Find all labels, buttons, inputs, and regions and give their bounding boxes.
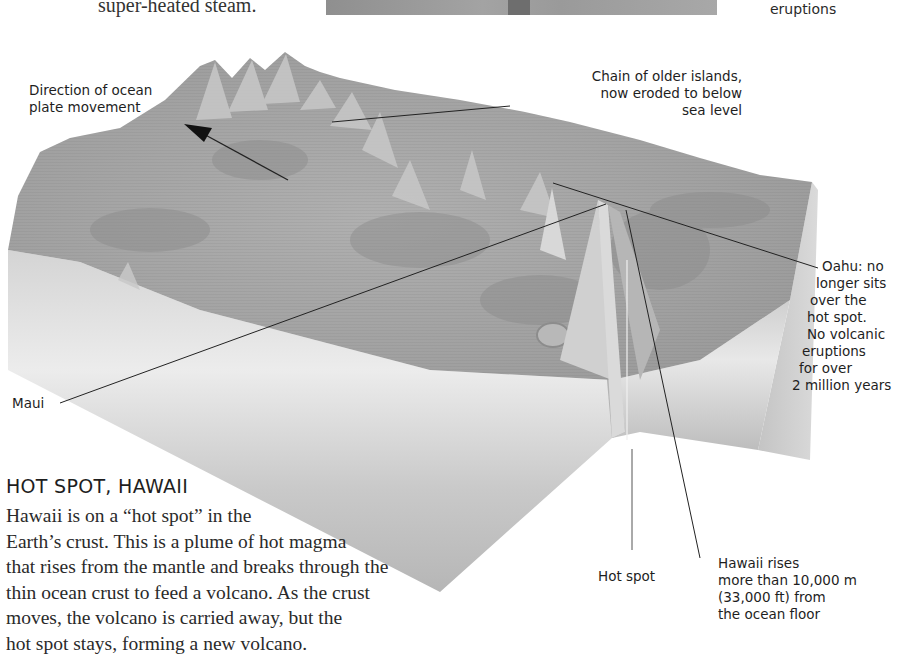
label-oahu: Oahu: no longer sits over the hot spot. … [790,258,914,394]
label-plate-direction: Direction of ocean plate movement [29,82,152,116]
section-heading: HOT SPOT, HAWAII [6,475,188,497]
label-hawaii-rises: Hawaii rises more than 10,000 m (33,000 … [718,555,857,623]
label-maui: Maui [12,395,44,412]
label-hot-spot: Hot spot [598,568,655,585]
description-paragraph: Hawaii is on a “hot spot” in the Earth’s… [6,503,466,656]
label-older-islands: Chain of older islands, now eroded to be… [560,68,742,119]
